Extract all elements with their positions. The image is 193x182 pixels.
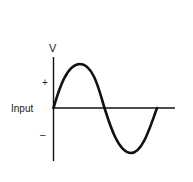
input-label: Input	[11, 103, 33, 114]
negative-label: –	[40, 129, 46, 140]
positive-label: +	[42, 77, 48, 88]
axis-label-v: V	[49, 42, 57, 54]
sine-wave-diagram: V + – Input	[0, 0, 193, 182]
